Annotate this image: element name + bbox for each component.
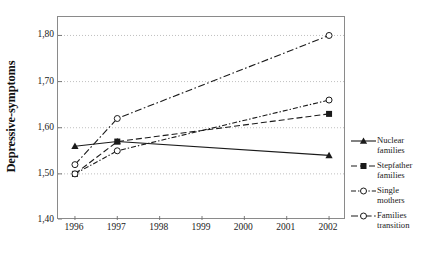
- data-point-marker: [361, 213, 367, 219]
- data-point-marker: [114, 116, 120, 122]
- x-axis-tick-labels: 1996199719981999200020012002: [57, 222, 345, 238]
- legend-label: Families transition: [377, 209, 409, 230]
- y-axis-tick-label: 1,60: [26, 122, 54, 132]
- legend-item-stepfather-families[interactable]: Stepfather families: [350, 159, 441, 183]
- legend-item-nuclear-families[interactable]: Nuclear families: [350, 134, 441, 158]
- legend-key-icon: [350, 184, 377, 206]
- data-point-marker: [326, 32, 332, 38]
- y-axis-tick-label: 1,70: [26, 76, 54, 86]
- x-axis-tick-label: 2002: [308, 222, 348, 233]
- data-point-marker: [72, 162, 78, 168]
- x-axis-tick-label: 1996: [54, 222, 94, 233]
- y-axis-title-text: Depressive-symptoms: [5, 60, 20, 172]
- y-axis-tick-labels: 1,401,501,601,701,80: [20, 0, 54, 240]
- y-axis-tick-label: 1,40: [26, 214, 54, 224]
- series-stepfather-families: [72, 111, 332, 177]
- data-point-marker: [114, 148, 120, 154]
- y-axis-tick-label: 1,80: [26, 29, 54, 39]
- plot-area: [57, 16, 345, 219]
- plot-svg: [58, 17, 346, 220]
- x-axis-tick-label: 1999: [181, 222, 221, 233]
- x-axis-tick-label: 2001: [266, 222, 306, 233]
- legend-item-families-transition[interactable]: Families transition: [350, 209, 441, 233]
- legend-label: Nuclear families: [377, 134, 405, 155]
- x-axis-tick-label: 2000: [223, 222, 263, 233]
- y-axis-tick-label: 1,50: [26, 168, 54, 178]
- data-point-marker: [361, 163, 367, 169]
- chart-legend: Nuclear familiesStepfather familiesSingl…: [350, 134, 441, 240]
- series-single-mothers: [72, 97, 332, 177]
- series-line: [75, 100, 329, 174]
- data-point-marker: [326, 97, 332, 103]
- legend-label: Stepfather families: [377, 159, 412, 180]
- series-nuclear-families: [71, 138, 332, 158]
- legend-key-icon: [350, 159, 377, 181]
- legend-key-icon: [350, 134, 377, 156]
- x-axis-tick-label: 1998: [139, 222, 179, 233]
- data-point-marker: [72, 171, 78, 177]
- data-point-marker: [326, 111, 332, 117]
- legend-key-icon: [350, 209, 377, 231]
- legend-item-single-mothers[interactable]: Single mothers: [350, 184, 441, 208]
- x-axis-tick-label: 1997: [96, 222, 136, 233]
- legend-label: Single mothers: [377, 184, 405, 205]
- chart-figure: Depressive-symptoms 1,401,501,601,701,80…: [0, 0, 441, 262]
- data-point-marker: [361, 188, 367, 194]
- data-point-marker: [114, 139, 120, 145]
